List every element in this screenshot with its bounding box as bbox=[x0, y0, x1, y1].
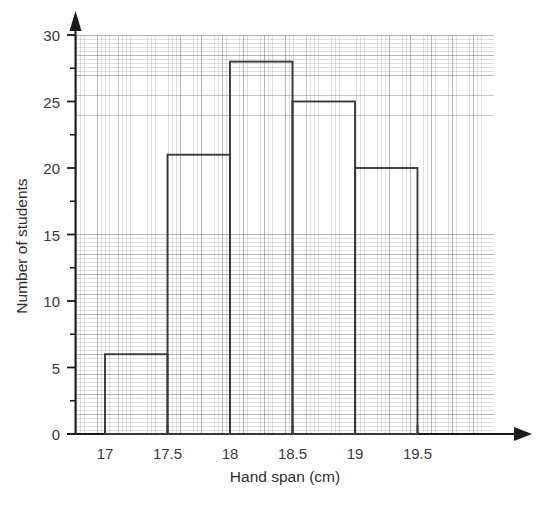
x-tick-label-19.5: 19.5 bbox=[388, 446, 448, 461]
bar-17-17.5 bbox=[105, 354, 168, 434]
chart-canvas: 0 5 10 15 20 25 30 17 17.5 18 18.5 19 19… bbox=[0, 0, 542, 507]
y-tick-label-25: 25 bbox=[30, 95, 60, 110]
x-tick-label-19: 19 bbox=[325, 446, 385, 461]
bar-17.5-18 bbox=[168, 155, 231, 434]
y-tick-label-10: 10 bbox=[30, 294, 60, 309]
histogram-plot bbox=[0, 0, 542, 507]
x-tick-label-18: 18 bbox=[200, 446, 260, 461]
y-tick-label-30: 30 bbox=[30, 28, 60, 43]
y-tick-label-0: 0 bbox=[30, 427, 60, 442]
y-tick-label-15: 15 bbox=[30, 228, 60, 243]
y-tick-label-5: 5 bbox=[30, 361, 60, 376]
bar-18.5-19 bbox=[293, 102, 356, 435]
bar-19-19.5 bbox=[355, 168, 418, 434]
bar-18-18.5 bbox=[230, 62, 293, 434]
x-axis-title: Hand span (cm) bbox=[76, 468, 494, 486]
y-axis-title: Number of students bbox=[13, 161, 31, 331]
x-tick-label-17: 17 bbox=[75, 446, 135, 461]
x-tick-label-18.5: 18.5 bbox=[263, 446, 323, 461]
histogram-bars bbox=[105, 62, 418, 434]
x-major-ticks bbox=[105, 425, 418, 434]
y-tick-label-20: 20 bbox=[30, 161, 60, 176]
x-tick-label-17.5: 17.5 bbox=[138, 446, 198, 461]
y-axis-arrow-icon bbox=[70, 11, 82, 31]
x-axis-arrow-icon bbox=[514, 427, 532, 441]
